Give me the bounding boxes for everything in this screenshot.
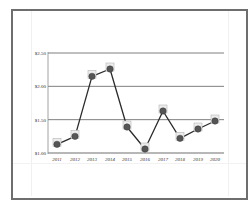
x-tick-label: 2011: [52, 157, 62, 162]
x-tick-label: 2013: [87, 157, 98, 162]
data-point-marker: [160, 108, 166, 114]
line-chart: $2.50 $2.00 $1.50 $1.00 2011 2012 2013 2…: [0, 0, 252, 210]
x-tick-label: 2020: [210, 157, 221, 162]
y-tick-label: $2.50: [35, 51, 47, 56]
data-point-marker: [89, 73, 95, 79]
x-tick-label: 2012: [70, 157, 81, 162]
data-point-marker: [54, 141, 60, 147]
data-point-marker: [142, 146, 148, 152]
y-axis-labels: $2.50 $2.00 $1.50 $1.00: [35, 51, 47, 156]
data-point-marker: [195, 126, 201, 132]
x-tick-label: 2019: [193, 157, 204, 162]
x-tick-label: 2018: [175, 157, 186, 162]
data-point-marker: [177, 135, 183, 141]
data-point-marker: [107, 66, 113, 72]
data-point-marker: [124, 124, 130, 130]
y-tick-label: $1.50: [35, 118, 47, 123]
x-tick-label: 2016: [140, 157, 151, 162]
x-axis-labels: 2011 2012 2013 2014 2015 2016 2017 2018 …: [52, 157, 220, 162]
y-tick-label: $1.00: [35, 151, 47, 156]
series-line: [57, 69, 215, 149]
y-tick-label: $2.00: [35, 84, 47, 89]
x-tick-label: 2017: [158, 157, 169, 162]
data-point-marker: [72, 133, 78, 139]
data-point-marker: [212, 118, 218, 124]
x-tick-label: 2014: [105, 157, 116, 162]
x-tick-label: 2015: [122, 157, 133, 162]
